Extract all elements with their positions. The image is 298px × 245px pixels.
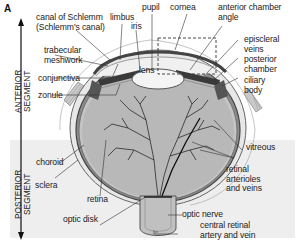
label-conjunctiva: conjunctiva [38, 74, 80, 84]
label-vitreous: vitreous [246, 143, 275, 153]
label-line: and veins [226, 184, 262, 194]
label-retina: retina [87, 195, 108, 205]
label-trabecular-meshwork: trabecular meshwork [44, 46, 82, 65]
label-iris: iris [131, 22, 142, 32]
optic-nerve [140, 196, 176, 236]
label-choroid: choroid [36, 158, 64, 168]
label-line: (Schlemm's canal) [36, 23, 105, 33]
anterior-segment-label: ANTERIOR SEGMENT [14, 70, 32, 113]
label-line: body [244, 86, 265, 96]
label-line: angle [218, 13, 281, 23]
label-posterior-chamber: posterior chamber [244, 55, 277, 74]
label-retinal-arterioles-and-veins: retinal arterioles and veins [226, 165, 262, 194]
label-central-retinal-artery-and-vein: central retinal artery and vein [200, 221, 255, 240]
label-episcleral-veins: episcleral veins [244, 35, 279, 54]
label-line: veins [244, 45, 279, 55]
label-line: chamber [244, 65, 277, 75]
label-canal-of-schlemm: canal of Schlemm (Schlemm's canal) [36, 13, 105, 32]
label-sclera: sclera [35, 181, 57, 191]
panel-letter: A [4, 3, 11, 14]
label-cornea: cornea [170, 3, 196, 13]
label-lens: lens [139, 66, 154, 76]
label-optic-nerve: optic nerve [182, 210, 223, 220]
label-line: meshwork [44, 56, 82, 66]
eye-anatomy-diagram: A ANTERIOR SEGMENT POSTERIOR SEGMENT can… [0, 0, 298, 245]
label-pupil: pupil [142, 3, 160, 13]
label-line: artery and vein [200, 231, 255, 241]
label-zonule: zonule [38, 91, 63, 101]
label-anterior-chamber-angle: anterior chamber angle [218, 3, 281, 22]
posterior-segment-line-2: SEGMENT [23, 170, 32, 219]
label-optic-disk: optic disk [63, 215, 98, 225]
anterior-segment-line-2: SEGMENT [23, 70, 32, 113]
posterior-segment-label: POSTERIOR SEGMENT [14, 170, 32, 219]
label-ciliary-body: ciliary body [244, 76, 265, 95]
